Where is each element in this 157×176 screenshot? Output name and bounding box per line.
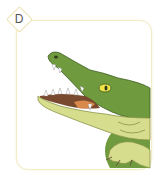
crocodile-illustration <box>0 0 157 176</box>
